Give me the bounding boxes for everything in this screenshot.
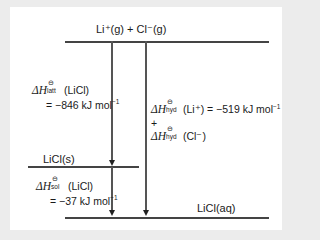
bottom-level-label: LiCl(aq) — [197, 203, 236, 214]
lattice-enthalpy-value: = −846 kJ mol−1 — [46, 99, 119, 110]
hydration-cl-species: (Cl⁻) — [180, 130, 206, 142]
solution-subscript: sol — [51, 184, 59, 191]
hydration-li-value: (Li⁺) = −519 kJ mol — [180, 103, 273, 115]
lattice-unit-exponent: −1 — [112, 98, 119, 105]
hydration-cl-label: ΔH⊖hyd (Cl⁻) — [151, 130, 206, 143]
solution-enthalpy-value: = −37 kJ mol−1 — [50, 195, 118, 206]
delta-h-symbol: ΔH — [32, 84, 47, 96]
solution-arrowhead-icon — [109, 210, 115, 216]
hydration-unit-exponent: −1 — [273, 103, 280, 110]
hydration-li-label: ΔH⊖hyd (Li⁺) = −519 kJ mol−1 — [151, 103, 280, 116]
middle-level-line — [28, 166, 139, 168]
lattice-value-text: = −846 kJ mol — [46, 99, 112, 111]
solution-species: (LiCl) — [65, 180, 93, 192]
solution-unit-exponent: −1 — [110, 194, 117, 201]
delta-h-symbol: ΔH — [151, 103, 166, 115]
standard-state-symbol: ⊖ — [48, 79, 54, 86]
delta-h-symbol: ΔH — [151, 130, 166, 142]
solution-value-text: = −37 kJ mol — [50, 195, 110, 207]
lattice-species: (LiCl) — [61, 84, 89, 96]
lattice-subscript: latt — [47, 88, 56, 95]
standard-state-symbol: ⊖ — [167, 125, 173, 132]
lattice-enthalpy-label: ΔH⊖latt (LiCl) — [32, 84, 89, 97]
top-level-line — [65, 41, 269, 43]
hydration-arrowhead-icon — [143, 210, 149, 216]
hydration-arrow-shaft — [145, 41, 147, 210]
delta-h-symbol: ΔH — [36, 180, 51, 192]
standard-state-symbol: ⊖ — [167, 98, 173, 105]
hydration-plus-sign: + — [151, 118, 157, 129]
bottom-level-line — [65, 217, 269, 219]
solution-enthalpy-label: ΔH⊖sol (LiCl) — [36, 180, 93, 193]
hydration-subscript: hyd — [166, 107, 176, 114]
top-level-label: Li⁺(g) + Cl⁻(g) — [96, 24, 166, 35]
middle-level-label: LiCl(s) — [43, 154, 75, 165]
lattice-arrowhead-icon — [109, 160, 115, 166]
hydration-subscript: hyd — [166, 134, 176, 141]
standard-state-symbol: ⊖ — [52, 175, 58, 182]
